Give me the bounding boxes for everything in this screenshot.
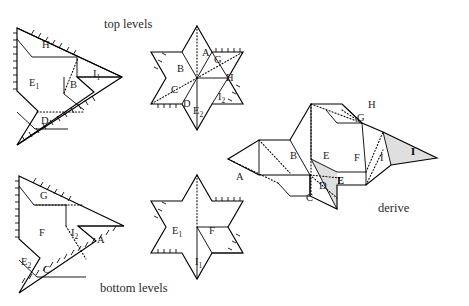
label-derive-G: G bbox=[357, 112, 365, 123]
label-top-star-B: B bbox=[177, 63, 184, 74]
label-top-star-H: H bbox=[226, 72, 234, 83]
label-derive-D: D bbox=[319, 180, 327, 191]
label-bottom-left-I2: I2 bbox=[71, 227, 79, 241]
label-top-star-D: D bbox=[183, 98, 191, 109]
label-derive-E: E bbox=[323, 150, 329, 161]
label-bottom-left-G: G bbox=[40, 190, 48, 201]
text-layer: top levels bottom levels derive H E1 B I… bbox=[0, 0, 469, 306]
label-bottom-left-C: C bbox=[43, 264, 50, 275]
label-bottom-left-F: F bbox=[39, 227, 45, 238]
label-derive-E-bold: E bbox=[337, 175, 344, 186]
label-derive-B: B bbox=[290, 150, 297, 161]
label-top-left-H: H bbox=[42, 39, 50, 50]
label-top-star-I2: I2 bbox=[218, 91, 226, 105]
label-top-left-D: D bbox=[41, 115, 49, 126]
label-bottom-left-E2: E2 bbox=[21, 256, 31, 270]
label-top-star-C: C bbox=[171, 84, 178, 95]
caption-top-levels: top levels bbox=[104, 17, 152, 31]
label-bottom-star-F: F bbox=[209, 225, 215, 236]
label-bottom-star-E1: E1 bbox=[172, 225, 182, 239]
label-derive-A: A bbox=[236, 171, 244, 182]
label-bottom-left-A: A bbox=[97, 234, 105, 245]
label-bottom-star-I1: I1 bbox=[195, 256, 203, 270]
label-top-left-E1: E1 bbox=[29, 77, 39, 91]
label-derive-H: H bbox=[368, 99, 376, 110]
geometric-folding-figure: top levels bottom levels derive H E1 B I… bbox=[0, 0, 469, 306]
label-top-left-B: B bbox=[70, 79, 77, 90]
caption-bottom-levels: bottom levels bbox=[100, 281, 168, 295]
label-top-star-E2: E2 bbox=[193, 105, 203, 119]
label-top-left-I1: I1 bbox=[93, 68, 101, 82]
label-derive-C: C bbox=[306, 192, 313, 203]
label-top-star-A: A bbox=[202, 47, 210, 58]
label-derive-I-bold: I bbox=[411, 146, 415, 157]
label-top-star-G: G bbox=[214, 54, 222, 65]
label-derive-F: F bbox=[354, 152, 360, 163]
caption-derive: derive bbox=[378, 201, 410, 215]
label-derive-I: I bbox=[380, 152, 384, 163]
